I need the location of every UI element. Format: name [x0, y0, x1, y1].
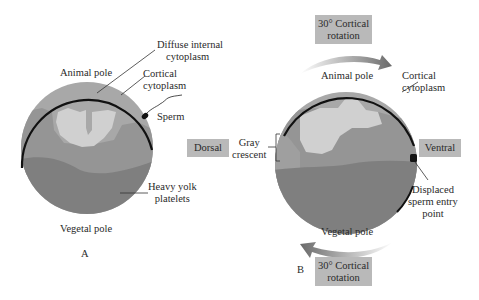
sperm-entry-line2: sperm entry [408, 196, 458, 208]
label-box-dorsal: Dorsal [187, 139, 229, 157]
sperm-entry-line1: Displaced [408, 184, 458, 196]
cortical-line1-b: Cortical [402, 70, 445, 82]
yolk-line1: Heavy yolk [148, 181, 197, 193]
diffuse-internal-line2: cytoplasm [157, 51, 223, 63]
label-cortical-cytoplasm-b: Cortical cytoplasm [402, 70, 445, 94]
panel-letter-b: B [297, 264, 304, 275]
cortical-line2-a: cytoplasm [143, 80, 186, 92]
label-diffuse-internal-cytoplasm: Diffuse internal cytoplasm [157, 39, 223, 63]
label-gray-crescent: Gray crescent [232, 137, 266, 161]
label-box-ventral: Ventral [419, 139, 461, 157]
diffuse-internal-line1: Diffuse internal [157, 39, 223, 51]
label-vegetal-pole-b: Vegetal pole [321, 226, 373, 238]
label-vegetal-pole-a: Vegetal pole [60, 223, 112, 235]
yolk-line2: platelets [148, 193, 197, 205]
rotation-top-line2: rotation [318, 30, 369, 42]
label-animal-pole-a: Animal pole [60, 67, 112, 79]
label-displaced-sperm-entry-point: Displaced sperm entry point [408, 184, 458, 220]
gray-crescent-line1: Gray [232, 137, 266, 149]
label-sperm: Sperm [157, 111, 184, 123]
rotation-bottom-line2: rotation [318, 272, 369, 284]
cortical-line2-b: cytoplasm [402, 82, 445, 94]
cortical-line1-a: Cortical [143, 68, 186, 80]
sperm-entry-line3: point [408, 208, 458, 220]
panel-letter-a: A [81, 248, 89, 259]
rotation-top-line1: 30° Cortical [318, 18, 369, 30]
label-heavy-yolk-platelets: Heavy yolk platelets [148, 181, 197, 205]
label-box-rotation-top: 30° Cortical rotation [315, 15, 372, 44]
label-box-rotation-bottom: 30° Cortical rotation [315, 257, 372, 286]
egg-b [268, 82, 428, 240]
rotation-arrow-bottom [300, 242, 393, 258]
rotation-bottom-line1: 30° Cortical [318, 260, 369, 272]
gray-crescent-line2: crescent [232, 149, 266, 161]
label-cortical-cytoplasm-a: Cortical cytoplasm [143, 68, 186, 92]
label-animal-pole-b: Animal pole [321, 70, 373, 82]
sperm-entry-point-b [410, 154, 417, 162]
